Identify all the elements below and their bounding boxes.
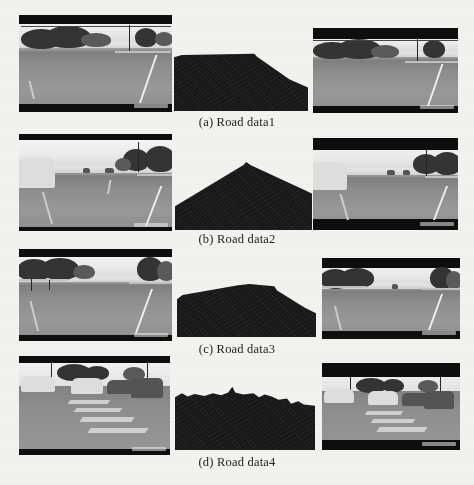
image-watermark [132, 447, 166, 451]
road-input-image-1 [19, 15, 172, 112]
figure-row-b: (b) Road data2 [0, 132, 474, 249]
road-mask-image-4 [175, 384, 315, 450]
letterbox-top-bar [19, 15, 172, 24]
tree-foliage [446, 271, 460, 289]
parked-vehicle [131, 378, 163, 398]
figure-panel-grid: (a) Road data1 [0, 0, 474, 485]
vehicle-distant [105, 168, 114, 173]
image-watermark [422, 442, 456, 446]
road-mask-image-2 [175, 160, 312, 230]
tree-foliage [81, 33, 111, 47]
overhead-wire [313, 40, 458, 41]
guardrail-right [129, 282, 172, 284]
road-input-image-4 [19, 356, 170, 455]
letterbox-top-bar [313, 28, 458, 39]
utility-pole [426, 150, 427, 176]
guardrail [405, 61, 458, 63]
letterbox-bottom-bar [19, 227, 172, 231]
tree-foliage [135, 28, 157, 47]
mask-noise-overlay [175, 384, 315, 450]
fence-post [31, 279, 32, 291]
vehicle-distant [387, 170, 395, 175]
road-scene-render-1 [19, 15, 172, 112]
road-surface [19, 48, 172, 112]
row-caption-a: (a) Road data1 [0, 115, 474, 130]
road-input-image-2 [19, 134, 172, 231]
image-watermark [422, 331, 456, 335]
letterbox-top-bar [19, 249, 172, 257]
utility-pole [129, 25, 130, 51]
mask-noise-overlay [175, 160, 312, 230]
row-caption-d: (d) Road data4 [0, 455, 474, 470]
road-scene-render-2 [19, 134, 172, 231]
image-watermark [134, 333, 168, 337]
figure-row-d: (d) Road data4 [0, 356, 474, 485]
vehicle-foreground-left [19, 158, 55, 188]
tree-foliage [145, 146, 172, 172]
road-result-image-1 [313, 28, 458, 113]
image-watermark [420, 105, 454, 109]
overhead-wire [21, 26, 171, 27]
road-scene-render-3 [19, 249, 172, 341]
road-input-image-3 [19, 249, 172, 341]
tree-foliage [155, 32, 172, 46]
image-watermark [134, 104, 168, 108]
tree-foliage [371, 45, 399, 58]
vehicle-foreground-left [313, 162, 347, 190]
image-watermark [134, 223, 168, 227]
parked-vehicle [21, 376, 55, 392]
tree-foliage [340, 268, 374, 288]
parked-vehicle [71, 378, 103, 394]
tree-foliage [73, 265, 95, 279]
mask-noise-overlay [177, 283, 316, 337]
crosswalk-stripe [87, 428, 148, 433]
parked-vehicle [368, 391, 398, 405]
row-caption-c: (c) Road data3 [0, 342, 474, 357]
road-scene-render-4-result [322, 363, 460, 450]
guardrail-left [19, 279, 67, 281]
utility-pole [138, 142, 139, 172]
vehicle-distant [403, 170, 410, 175]
road-scene-render-3-result [322, 258, 460, 339]
parked-vehicle [324, 389, 354, 403]
tree-foliage [157, 261, 172, 281]
road-result-image-3 [322, 258, 460, 339]
road-result-image-4 [322, 363, 460, 450]
parked-vehicle [424, 391, 454, 409]
letterbox-top-bar [19, 134, 172, 140]
letterbox-top-bar [322, 363, 460, 377]
row-caption-b: (b) Road data2 [0, 232, 474, 247]
figure-row-a: (a) Road data1 [0, 0, 474, 132]
guardrail [425, 176, 458, 178]
road-mask-image-3 [177, 283, 316, 337]
guardrail [137, 174, 172, 176]
crosswalk-stripe [376, 427, 427, 432]
crosswalk-stripe [68, 400, 111, 404]
letterbox-top-bar [313, 138, 458, 150]
image-watermark [420, 222, 454, 226]
road-result-image-2 [313, 138, 458, 230]
utility-pole [417, 39, 418, 62]
tree-foliage [423, 40, 445, 58]
mask-noise-overlay [174, 52, 308, 111]
tree-foliage [433, 152, 458, 175]
crosswalk-stripe [74, 408, 123, 412]
vehicle-distant [392, 284, 398, 289]
vehicle-distant [83, 168, 90, 173]
road-scene-render-4 [19, 356, 170, 455]
road-mask-image-1 [174, 52, 308, 111]
road-scene-render-2-result [313, 138, 458, 230]
tree-foliage [115, 158, 131, 171]
fence-post [49, 280, 50, 290]
road-scene-render-1-result [313, 28, 458, 113]
guardrail-left [322, 286, 366, 288]
guardrail [115, 51, 171, 53]
figure-row-c: (c) Road data3 [0, 247, 474, 359]
guardrail-right [422, 288, 460, 290]
crosswalk-stripe [371, 419, 416, 423]
crosswalk-stripe [79, 417, 134, 422]
letterbox-top-bar [19, 356, 170, 363]
crosswalk-stripe [365, 411, 404, 415]
